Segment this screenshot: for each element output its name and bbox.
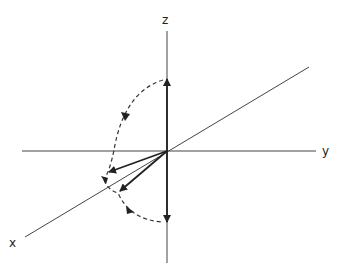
diagram-canvas: z y x [0, 0, 340, 271]
x-axis-label: x [9, 236, 16, 250]
z-axis-label: z [162, 13, 168, 27]
rotation-arc-upper [104, 80, 163, 180]
y-axis-label: y [322, 144, 329, 158]
rotation-arc-lower-arrowhead [126, 206, 134, 214]
vector-tilted-2 [120, 151, 167, 191]
rotation-arc-lower [104, 180, 163, 222]
rotation-arc-mid-arrowhead [101, 176, 108, 184]
